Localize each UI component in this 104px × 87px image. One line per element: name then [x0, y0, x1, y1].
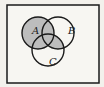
label-b: B	[67, 25, 75, 36]
label-a: A	[31, 25, 39, 36]
label-c: C	[49, 56, 57, 67]
venn-diagram: A B C	[0, 0, 104, 87]
